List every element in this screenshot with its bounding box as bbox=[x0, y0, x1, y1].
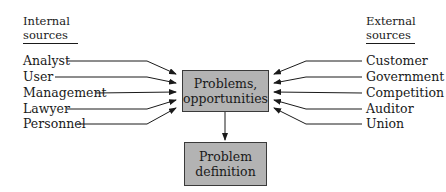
source-lawyer: Lawyer bbox=[23, 102, 70, 116]
arrow-customer bbox=[274, 61, 362, 74]
arrow-government bbox=[274, 77, 362, 83]
source-union: Union bbox=[366, 117, 404, 131]
arrow-user bbox=[55, 77, 176, 83]
source-personnel: Personnel bbox=[23, 117, 86, 131]
source-management: Management bbox=[23, 86, 106, 100]
source-user: User bbox=[23, 70, 53, 84]
arrow-union bbox=[274, 108, 362, 124]
internal-heading: Internal sources bbox=[23, 14, 70, 42]
arrow-competition bbox=[274, 92, 362, 93]
arrow-lawyer bbox=[67, 100, 176, 109]
internal-heading-rule bbox=[23, 43, 78, 44]
external-heading-rule bbox=[366, 43, 415, 44]
arrow-management bbox=[96, 92, 176, 93]
problem-definition-box: Problem definition bbox=[184, 142, 267, 186]
source-government: Government bbox=[366, 70, 444, 84]
source-analyst: Analyst bbox=[23, 54, 70, 68]
problems-opportunities-box: Problems, opportunities bbox=[182, 70, 269, 112]
source-competition: Competition bbox=[366, 86, 444, 100]
source-auditor: Auditor bbox=[366, 102, 414, 116]
arrow-analyst bbox=[67, 61, 176, 74]
arrow-auditor bbox=[274, 100, 362, 109]
arrow-personnel bbox=[77, 108, 176, 124]
source-customer: Customer bbox=[366, 54, 428, 68]
external-heading: External sources bbox=[366, 14, 416, 42]
